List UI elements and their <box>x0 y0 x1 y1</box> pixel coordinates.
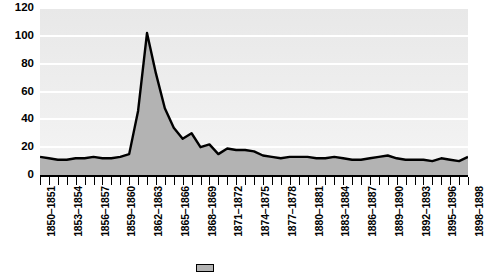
x-tick-label: 1892–1893 <box>420 186 432 237</box>
x-tick <box>120 177 121 185</box>
x-tick <box>192 177 193 185</box>
y-tick-label: 40 <box>21 112 34 124</box>
x-tick-label: 1895–1896 <box>446 186 458 237</box>
x-tick-label: 1868–1869 <box>206 186 218 237</box>
legend-swatch <box>196 264 214 272</box>
x-tick <box>361 177 362 185</box>
x-tick <box>406 177 407 185</box>
x-tick <box>138 177 139 185</box>
x-tick-label: 1898–1898 <box>473 186 485 237</box>
y-tick-label: 20 <box>21 140 34 152</box>
x-tick-label: 1886–1887 <box>366 186 378 237</box>
y-tick-label: 60 <box>21 85 34 97</box>
x-tick <box>245 177 246 185</box>
x-tick <box>49 177 50 185</box>
x-tick <box>325 177 326 185</box>
x-tick <box>94 177 95 185</box>
x-tick <box>156 177 157 185</box>
x-tick <box>183 177 184 185</box>
x-tick <box>272 177 273 185</box>
x-tick <box>218 177 219 185</box>
x-tick-label: 1889–1890 <box>393 186 405 237</box>
x-tick <box>388 177 389 185</box>
x-tick <box>343 177 344 185</box>
x-tick <box>450 177 451 185</box>
x-tick <box>111 177 112 185</box>
x-tick <box>423 177 424 185</box>
plot-area <box>40 8 468 175</box>
x-tick <box>254 177 255 185</box>
x-tick-label: 1883–1884 <box>339 186 351 237</box>
y-tick-label: 80 <box>21 57 34 69</box>
x-tick <box>85 177 86 185</box>
area-fill <box>40 33 468 175</box>
x-tick-label: 1865–1866 <box>179 186 191 237</box>
x-tick <box>76 177 77 185</box>
x-tick <box>308 177 309 185</box>
x-tick-label: 1859–1860 <box>125 186 137 237</box>
x-tick <box>102 177 103 185</box>
x-tick <box>459 177 460 185</box>
x-tick-label: 1853–1854 <box>72 186 84 237</box>
x-tick <box>334 177 335 185</box>
y-tick-label: 120 <box>15 1 34 13</box>
x-tick <box>263 177 264 185</box>
x-tick <box>236 177 237 185</box>
x-tick <box>299 177 300 185</box>
area-series <box>40 8 468 175</box>
x-tick <box>370 177 371 185</box>
x-tick <box>468 177 469 185</box>
y-tick-label: 0 <box>28 168 34 180</box>
x-tick <box>432 177 433 185</box>
x-tick-label: 1874–1875 <box>259 186 271 237</box>
x-tick <box>40 177 41 185</box>
x-tick-label: 1871–1872 <box>232 186 244 237</box>
x-tick <box>415 177 416 185</box>
area-line <box>40 33 468 161</box>
x-tick <box>397 177 398 185</box>
x-tick-label: 1850–1851 <box>45 186 57 237</box>
y-tick-label: 100 <box>15 29 34 41</box>
x-tick-label: 1862–1863 <box>152 186 164 237</box>
x-tick <box>165 177 166 185</box>
x-tick <box>316 177 317 185</box>
x-tick <box>174 177 175 185</box>
x-tick <box>290 177 291 185</box>
x-tick <box>129 177 130 185</box>
x-tick-label: 1880–1881 <box>313 186 325 237</box>
x-tick <box>379 177 380 185</box>
x-tick <box>441 177 442 185</box>
x-tick <box>201 177 202 185</box>
x-tick <box>227 177 228 185</box>
x-axis-labels: 1850–18511853–18541856–18571859–18601862… <box>40 186 468 268</box>
x-tick <box>209 177 210 185</box>
x-tick-label: 1856–1857 <box>99 186 111 237</box>
x-tick <box>58 177 59 185</box>
x-tick <box>352 177 353 185</box>
x-tick <box>67 177 68 185</box>
x-axis-ticks <box>40 177 468 185</box>
x-tick <box>281 177 282 185</box>
x-tick-label: 1877–1878 <box>286 186 298 237</box>
x-tick <box>147 177 148 185</box>
y-axis: 020406080100120 <box>0 0 36 183</box>
